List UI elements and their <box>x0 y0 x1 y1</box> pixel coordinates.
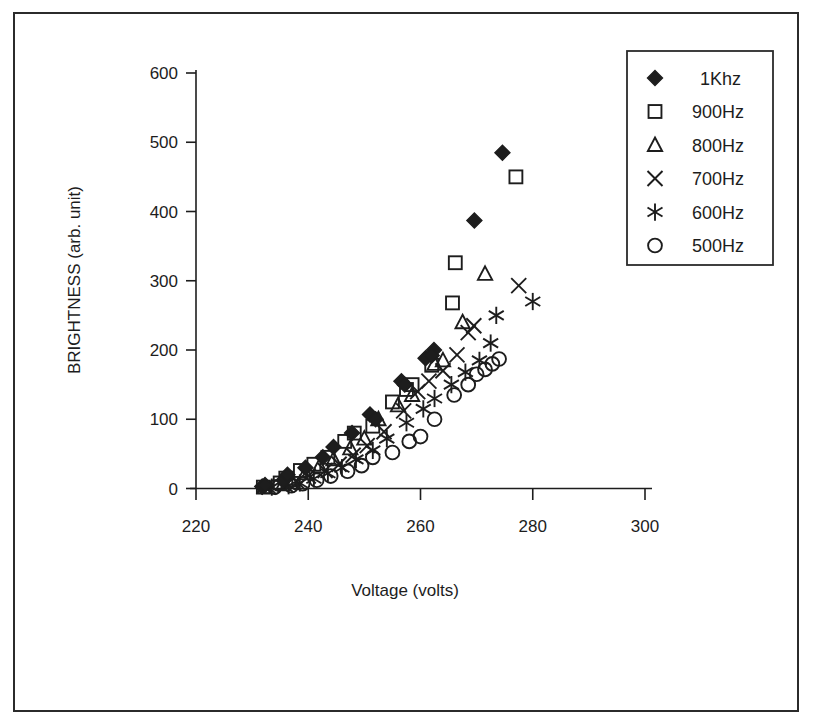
y-axis-ticks <box>186 73 196 489</box>
legend-label: 800Hz <box>692 136 744 156</box>
legend-label: 700Hz <box>692 169 744 189</box>
series-900hz <box>257 170 522 493</box>
data-point <box>525 293 540 310</box>
legend-label: 1Khz <box>700 69 741 89</box>
data-point <box>467 213 482 228</box>
data-point <box>414 430 428 444</box>
data-point <box>428 412 442 426</box>
y-tick-label: 100 <box>150 410 178 429</box>
legend-label: 500Hz <box>692 236 744 256</box>
data-point <box>421 374 436 389</box>
x-tick-label: 280 <box>519 517 547 536</box>
data-point <box>449 347 464 362</box>
data-points-layer <box>255 145 541 496</box>
y-tick-label: 500 <box>150 133 178 152</box>
data-point <box>483 334 498 351</box>
y-tick-label: 0 <box>169 480 178 499</box>
data-point <box>495 145 510 160</box>
data-point <box>449 256 462 269</box>
y-tick-label: 200 <box>150 341 178 360</box>
data-point <box>511 278 526 293</box>
legend-label: 900Hz <box>692 102 744 122</box>
x-tick-label: 260 <box>406 517 434 536</box>
data-point <box>345 426 360 441</box>
data-point <box>447 388 461 402</box>
y-tick-label: 600 <box>150 64 178 83</box>
series-700hz <box>261 278 526 495</box>
y-tick-label: 400 <box>150 203 178 222</box>
x-tick-label: 300 <box>631 517 659 536</box>
x-axis-tick-labels: 220240260280300 <box>182 517 659 536</box>
data-point <box>399 414 414 431</box>
data-point <box>509 170 522 183</box>
y-tick-label: 300 <box>150 272 178 291</box>
x-tick-label: 240 <box>294 517 322 536</box>
legend-label: 600Hz <box>692 203 744 223</box>
y-axis-tick-labels: 0100200300400500600 <box>150 64 178 499</box>
x-tick-label: 220 <box>182 517 210 536</box>
data-point <box>386 446 400 460</box>
series-800hz <box>257 266 492 493</box>
data-point <box>472 352 487 369</box>
data-point <box>478 266 492 280</box>
data-point <box>489 307 504 324</box>
data-point <box>444 376 459 393</box>
x-axis-title: Voltage (volts) <box>351 581 459 600</box>
y-axis-title: BRIGHTNESS (arb. unit) <box>65 186 84 374</box>
data-point <box>446 296 459 309</box>
